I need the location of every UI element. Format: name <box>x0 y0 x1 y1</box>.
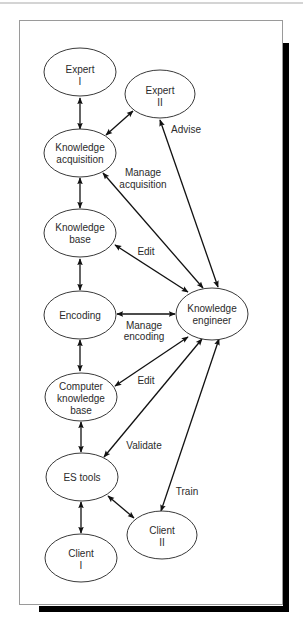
node-label: I <box>79 76 82 87</box>
node-label: II <box>159 537 165 548</box>
node-label: base <box>70 405 92 416</box>
node-expert-1: Expert I <box>44 48 116 96</box>
node-label: Expert <box>146 85 175 96</box>
node-client-1: Client I <box>45 534 117 582</box>
node-label: engineer <box>193 315 233 326</box>
node-label: Client <box>149 525 175 536</box>
edge-label-edit-computer-kb: Edit <box>137 375 154 386</box>
svg-text:Advise: Advise <box>171 124 201 135</box>
node-expert-2: Expert II <box>125 70 195 118</box>
edge-label-advise: Advise <box>171 124 201 135</box>
svg-text:Edit: Edit <box>137 375 154 386</box>
expert-system-development-diagram: Expert I Expert II Knowledge acquisition… <box>0 0 303 621</box>
node-knowledge-acquisition: Knowledge acquisition <box>44 129 116 177</box>
node-label: acquisition <box>56 154 103 165</box>
edge-label-validate: Validate <box>126 440 162 451</box>
svg-text:Train: Train <box>176 486 198 497</box>
node-label: Knowledge <box>55 142 105 153</box>
edge-label-edit-knowledge-base: Edit <box>137 246 154 257</box>
svg-text:Edit: Edit <box>137 246 154 257</box>
node-label: base <box>69 234 91 245</box>
node-label: II <box>157 97 163 108</box>
svg-text:Manage: Manage <box>126 320 163 331</box>
svg-text:encoding: encoding <box>124 331 165 342</box>
node-encoding: Encoding <box>44 291 116 339</box>
frame-shadow-bottom <box>39 606 289 612</box>
edge-label-manage-acquisition: Manage acquisition <box>119 167 166 190</box>
node-es-tools: ES tools <box>46 453 118 501</box>
svg-text:acquisition: acquisition <box>119 179 166 190</box>
node-label: Knowledge <box>187 303 237 314</box>
node-label: Encoding <box>59 310 101 321</box>
frame-shadow-right <box>283 43 289 612</box>
node-knowledge-base: Knowledge base <box>44 209 116 257</box>
svg-text:Manage: Manage <box>125 167 162 178</box>
node-label: Client <box>68 548 94 559</box>
node-label: I <box>80 560 83 571</box>
svg-text:Validate: Validate <box>126 440 162 451</box>
node-knowledge-engineer: Knowledge engineer <box>176 288 248 340</box>
node-label: Computer <box>59 381 104 392</box>
node-client-2: Client II <box>127 511 197 559</box>
node-label: Knowledge <box>55 222 105 233</box>
node-label: ES tools <box>63 472 100 483</box>
edge-label-manage-encoding: Manage encoding <box>124 320 165 342</box>
node-label: Expert <box>66 64 95 75</box>
edge-label-train: Train <box>176 486 198 497</box>
node-label: knowledge <box>57 393 105 404</box>
node-computer-knowledge-base: Computer knowledge base <box>45 373 117 421</box>
